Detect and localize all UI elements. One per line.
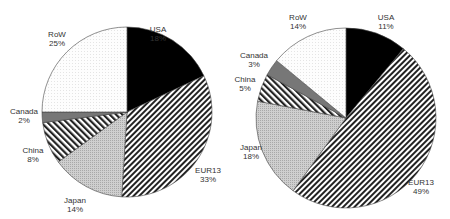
slice-label-japan: Japan14% (64, 196, 86, 214)
slice-label-china: China8% (23, 146, 44, 164)
slice-label-row: RoW25% (48, 30, 66, 48)
slice-label-canada: Canada3% (240, 51, 269, 69)
pie-chart-1 (42, 27, 212, 197)
pie-charts: USA18%EUR1333%Japan14%China8%Canada2%RoW… (0, 0, 450, 219)
slice-label-eur13: EUR1333% (195, 166, 221, 184)
slice-label-canada: Canada2% (10, 107, 39, 125)
slice-label-china: China5% (235, 75, 256, 93)
slice-label-row: RoW14% (289, 13, 307, 31)
slice-label-usa: USA11% (378, 13, 395, 31)
slice-label-eur13: EUR1349% (408, 178, 434, 196)
slice-label-japan: Japan18% (240, 143, 262, 161)
slice-label-usa: USA18% (150, 25, 167, 43)
